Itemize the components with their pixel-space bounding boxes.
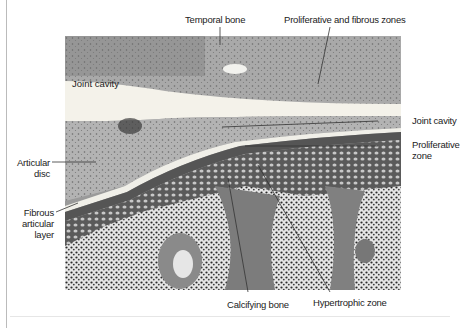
label-fibrous-articular-layer: Fibrous articular layer bbox=[10, 207, 54, 240]
label-joint-cavity: Joint cavity bbox=[412, 115, 457, 126]
label-proliferative-zone-line1: Proliferative bbox=[412, 139, 460, 150]
label-articular-disc-line1: Articular bbox=[10, 157, 50, 168]
label-proliferative-zone: Proliferative zone bbox=[412, 139, 460, 161]
label-fibrous-line3: layer bbox=[10, 229, 54, 240]
label-fibrous-line1: Fibrous bbox=[10, 207, 54, 218]
label-articular-disc-line2: disc bbox=[10, 168, 50, 179]
label-calcifying-bone: Calcifying bone bbox=[227, 299, 289, 310]
label-proliferative-zone-line2: zone bbox=[412, 150, 460, 161]
label-articular-disc: Articular disc bbox=[10, 157, 50, 179]
label-proliferative-fibrous-zones: Proliferative and fibrous zones bbox=[284, 14, 406, 25]
label-hypertrophic-zone: Hypertrophic zone bbox=[313, 297, 387, 308]
leader-lines bbox=[0, 0, 470, 328]
label-fibrous-line2: articular bbox=[10, 218, 54, 229]
label-temporal-bone: Temporal bone bbox=[185, 14, 245, 25]
